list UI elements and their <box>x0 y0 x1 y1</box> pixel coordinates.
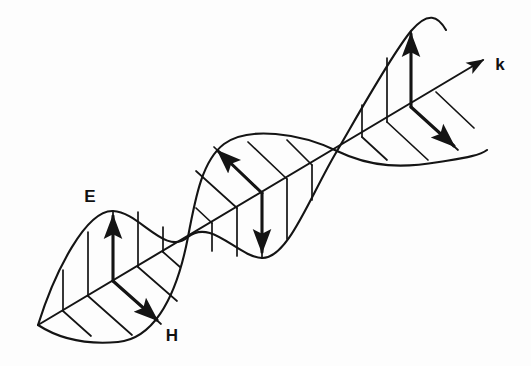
h-hatch-line <box>387 122 428 160</box>
h-hatch-line <box>63 311 91 336</box>
e-field-label: E <box>84 187 95 206</box>
h-hatch-line <box>436 92 474 128</box>
h-hatch-line <box>196 208 212 223</box>
h-hatch-line <box>163 252 180 267</box>
h-hatch-line <box>248 142 287 179</box>
h-hatch-line <box>362 137 387 160</box>
h-vector-arrow <box>113 281 157 320</box>
field-vector-arrows <box>113 34 454 320</box>
h-hatch-line <box>287 140 312 165</box>
e-field-wave <box>38 18 446 325</box>
figure-canvas: E H k <box>0 0 531 366</box>
h-vector-arrow <box>411 107 454 146</box>
k-vector-label: k <box>495 55 505 74</box>
em-wave-diagram: E H k <box>0 0 531 366</box>
h-vector-arrow <box>218 151 262 193</box>
h-hatch-line <box>88 296 132 335</box>
h-field-label: H <box>166 326 178 345</box>
